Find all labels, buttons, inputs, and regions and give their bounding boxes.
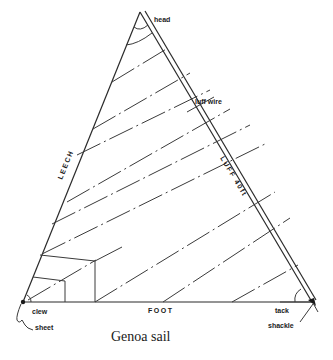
figure-caption: Genoa sail bbox=[111, 329, 171, 344]
sheet-rope bbox=[17, 304, 33, 330]
luff-wire-line bbox=[145, 11, 316, 300]
panel-seams bbox=[28, 48, 298, 302]
label-leech: LEECH bbox=[56, 149, 74, 181]
label-shackle: shackle bbox=[268, 322, 294, 329]
label-sheet: sheet bbox=[35, 324, 54, 331]
label-foot: FOOT bbox=[148, 307, 173, 314]
label-clew: clew bbox=[32, 308, 48, 315]
label-tack: tack bbox=[275, 307, 289, 314]
head-reinforcement bbox=[126, 25, 152, 45]
label-luff-wire: luff wire bbox=[195, 98, 222, 105]
genoa-sail-diagram: head luff wire LEECH LUFF 40ft FOOT clew… bbox=[0, 0, 333, 360]
clew-ring bbox=[21, 300, 25, 304]
leech-edge bbox=[23, 12, 140, 302]
label-head: head bbox=[154, 16, 170, 23]
shackle-leader bbox=[300, 304, 313, 322]
